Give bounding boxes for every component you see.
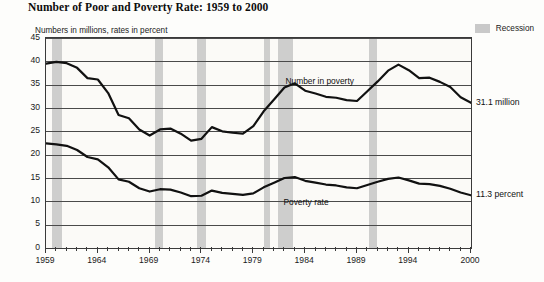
y-axis-tick-label: 30 xyxy=(14,102,40,112)
legend: Recession xyxy=(475,24,534,33)
x-axis-tick xyxy=(76,247,77,251)
x-axis-tick xyxy=(335,247,336,251)
x-axis-tick xyxy=(86,247,87,251)
x-axis-tick xyxy=(397,247,398,251)
x-axis-tick xyxy=(200,247,201,253)
page-title: Number of Poor and Poverty Rate: 1959 to… xyxy=(28,1,268,13)
x-axis-tick xyxy=(118,247,119,251)
series-label-number-in-poverty: Number in poverty xyxy=(285,76,353,86)
x-axis-tick-label: 1974 xyxy=(191,255,210,265)
x-axis-tick xyxy=(283,247,284,251)
legend-label-recession: Recession xyxy=(496,24,534,33)
y-axis-tick-label: 35 xyxy=(14,78,40,88)
chart-page: Number of Poor and Poverty Rate: 1959 to… xyxy=(0,0,544,282)
end-value-number-in-poverty: 31.1 million xyxy=(476,97,519,107)
x-axis-tick-label: 1959 xyxy=(35,255,54,265)
x-axis-tick xyxy=(263,247,264,251)
plot-area xyxy=(45,37,472,249)
y-axis-tick-label: 5 xyxy=(14,218,40,228)
x-axis-tick xyxy=(449,247,450,251)
chart-subtitle: Numbers in millions, rates in percent xyxy=(35,26,167,35)
x-axis-tick xyxy=(169,247,170,251)
x-axis-tick xyxy=(252,247,253,253)
x-axis-tick xyxy=(418,247,419,251)
x-axis-tick xyxy=(304,247,305,253)
x-axis-tick xyxy=(211,247,212,251)
x-axis-tick xyxy=(107,247,108,251)
y-axis-tick-label: 0 xyxy=(14,242,40,252)
series-lines xyxy=(46,38,471,248)
y-axis-tick-label: 20 xyxy=(14,148,40,158)
x-axis-tick xyxy=(55,247,56,251)
x-axis-tick xyxy=(66,247,67,251)
y-axis-tick-label: 45 xyxy=(14,32,40,42)
x-axis-tick-label: 1984 xyxy=(295,255,314,265)
x-axis-tick-label: 2000 xyxy=(460,255,479,265)
x-axis-tick-label: 1979 xyxy=(243,255,262,265)
x-axis-tick xyxy=(460,247,461,251)
x-axis-tick xyxy=(439,247,440,251)
x-axis-tick xyxy=(180,247,181,251)
series-label-poverty-rate: Poverty rate xyxy=(283,197,328,207)
x-axis-tick-label: 1969 xyxy=(139,255,158,265)
x-axis-tick xyxy=(45,247,46,253)
x-axis-tick xyxy=(429,247,430,251)
series-line-2 xyxy=(46,143,471,196)
x-axis-tick xyxy=(149,247,150,253)
recession-swatch-icon xyxy=(475,24,490,33)
x-axis-tick xyxy=(159,247,160,251)
x-axis-tick xyxy=(97,247,98,253)
x-axis-tick xyxy=(346,247,347,251)
x-axis-tick-label: 1964 xyxy=(87,255,106,265)
x-axis-tick xyxy=(242,247,243,251)
y-axis-tick-label: 10 xyxy=(14,195,40,205)
x-axis-tick-label: 1994 xyxy=(398,255,417,265)
x-axis-tick xyxy=(356,247,357,253)
x-axis-tick xyxy=(366,247,367,251)
x-axis-tick xyxy=(273,247,274,251)
series-line-1 xyxy=(46,62,471,141)
x-axis-tick xyxy=(294,247,295,251)
x-axis-tick xyxy=(408,247,409,253)
x-axis-tick-label: 1989 xyxy=(346,255,365,265)
x-axis-tick xyxy=(377,247,378,251)
x-axis-tick xyxy=(128,247,129,251)
end-value-poverty-rate: 11.3 percent xyxy=(476,189,523,199)
x-axis-tick xyxy=(221,247,222,251)
x-axis-tick xyxy=(315,247,316,251)
y-axis-tick-label: 25 xyxy=(14,125,40,135)
x-axis-tick xyxy=(138,247,139,251)
x-axis-tick xyxy=(325,247,326,251)
x-axis-tick xyxy=(470,247,471,253)
y-axis-tick-label: 40 xyxy=(14,55,40,65)
x-axis-tick xyxy=(232,247,233,251)
y-axis-tick-label: 15 xyxy=(14,172,40,182)
x-axis-tick xyxy=(387,247,388,251)
x-axis-tick xyxy=(190,247,191,251)
